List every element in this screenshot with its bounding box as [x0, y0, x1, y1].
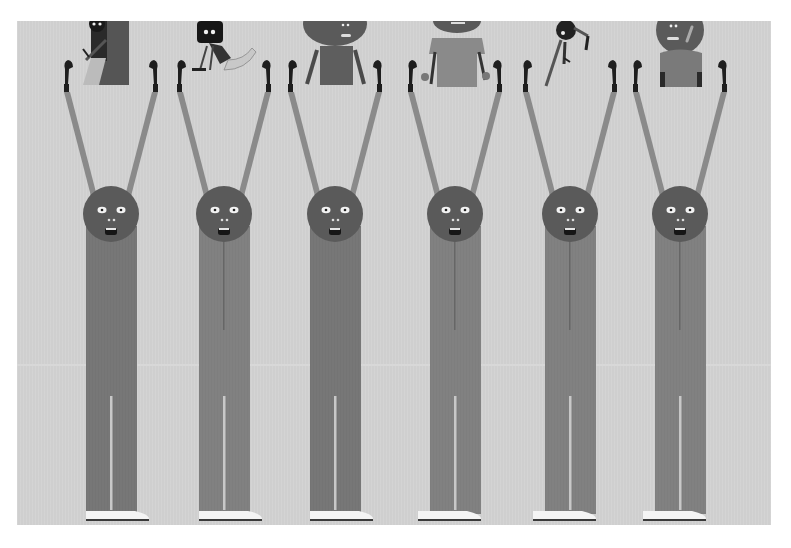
right-pupil — [344, 209, 347, 212]
nostril — [682, 219, 685, 222]
shirt-seam — [223, 230, 225, 330]
right-arm — [693, 92, 727, 200]
shoe — [86, 511, 149, 519]
eye-icon — [98, 22, 101, 25]
eye-icon — [675, 25, 678, 28]
right-pupil — [120, 209, 123, 212]
top-character-6 — [656, 21, 704, 87]
leg-gap — [334, 396, 337, 510]
right-wrist — [153, 84, 158, 92]
right-pupil — [579, 209, 582, 212]
left-hand-icon — [288, 60, 297, 85]
left-hand-icon — [177, 60, 186, 85]
left-wrist — [64, 84, 69, 92]
leg-gap — [679, 396, 682, 510]
eye-icon — [342, 24, 345, 27]
right-hand-icon — [608, 60, 617, 85]
top-character-3 — [303, 21, 367, 85]
character-arm — [307, 50, 317, 84]
eye-icon — [347, 24, 350, 27]
leg-gap — [569, 396, 572, 510]
left-wrist — [633, 84, 638, 92]
shoe — [310, 511, 373, 519]
character-arm — [355, 50, 364, 84]
figure-3 — [288, 21, 382, 521]
right-hand-icon — [718, 60, 727, 85]
figure-5 — [523, 21, 617, 521]
right-pupil — [233, 209, 236, 212]
teeth — [219, 228, 229, 230]
left-pupil — [214, 209, 217, 212]
nostril — [108, 219, 111, 222]
shoe-sole — [643, 519, 706, 521]
suspender — [660, 72, 665, 87]
right-pupil — [689, 209, 692, 212]
eye-icon — [561, 31, 565, 35]
shirt-seam — [569, 230, 571, 330]
suspender — [697, 72, 702, 87]
shoe — [199, 511, 262, 519]
nostril — [226, 219, 229, 222]
small-head-icon — [482, 72, 490, 80]
left-hand-icon — [408, 60, 417, 85]
eye-icon — [204, 30, 208, 34]
leg-gap — [110, 396, 113, 510]
character-arm — [431, 52, 435, 84]
eye-icon — [92, 22, 95, 25]
figure-1 — [64, 21, 158, 521]
right-wrist — [497, 84, 502, 92]
nostril — [113, 219, 116, 222]
right-arm — [237, 92, 271, 200]
left-arm — [408, 92, 442, 200]
eye-icon — [670, 25, 673, 28]
left-arm — [523, 92, 557, 200]
left-arm — [633, 92, 667, 200]
mouth-icon — [341, 34, 351, 37]
left-pupil — [445, 209, 448, 212]
eye-icon — [211, 30, 215, 34]
character-arm — [564, 42, 565, 64]
teeth — [565, 228, 575, 230]
nostril — [567, 219, 570, 222]
left-pupil — [560, 209, 563, 212]
character-head — [656, 21, 704, 54]
character-leg — [574, 28, 588, 36]
nostril — [221, 219, 224, 222]
top-character-2 — [192, 21, 256, 71]
teeth — [106, 228, 116, 230]
nostril — [332, 219, 335, 222]
robot-foot — [192, 68, 206, 71]
left-hand-icon — [64, 60, 73, 85]
character-head — [303, 21, 367, 46]
mouth-icon — [667, 37, 679, 40]
left-arm — [288, 92, 322, 200]
shoe-sole — [533, 519, 596, 521]
shoe-sole — [418, 519, 481, 521]
figures-artwork — [17, 21, 771, 525]
left-pupil — [101, 209, 104, 212]
nostril — [452, 219, 455, 222]
right-wrist — [377, 84, 382, 92]
robot-leg — [200, 46, 207, 70]
figure-2 — [177, 21, 271, 521]
character-torso — [320, 46, 353, 85]
top-character-1 — [83, 21, 129, 85]
character-tray — [83, 49, 89, 57]
right-arm — [124, 92, 158, 200]
shirt-seam — [454, 230, 456, 330]
right-arm — [583, 92, 617, 200]
shoe — [643, 511, 706, 519]
character-foot — [586, 36, 588, 50]
leg-gap — [454, 396, 457, 510]
left-wrist — [408, 84, 413, 92]
right-hand-icon — [262, 60, 271, 85]
nostril — [337, 219, 340, 222]
right-hand-icon — [373, 60, 382, 85]
right-wrist — [612, 84, 617, 92]
left-wrist — [523, 84, 528, 92]
leg-gap — [223, 396, 226, 510]
top-character-5 — [546, 21, 588, 86]
shoe — [533, 511, 596, 519]
left-hand-icon — [633, 60, 642, 85]
shoe-sole — [199, 519, 262, 521]
